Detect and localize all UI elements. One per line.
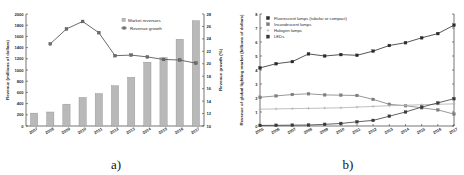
svg-text:LEDs: LEDs — [274, 34, 284, 39]
svg-text:2008: 2008 — [44, 126, 55, 135]
svg-text:Fluorescent lamps (tubular or: Fluorescent lamps (tubular or compact) — [274, 16, 347, 21]
svg-text:2: 2 — [255, 96, 258, 101]
svg-text:1800: 1800 — [14, 23, 24, 28]
svg-text:1: 1 — [255, 110, 258, 115]
chart-b-x-tick-labels: 2005200620072008200920102011201220132014… — [254, 126, 459, 135]
svg-text:28: 28 — [207, 12, 212, 17]
chart-b-svg: Revenue of global lighting market (billi… — [232, 0, 464, 160]
svg-text:Revenue growth: Revenue growth — [130, 26, 163, 31]
svg-text:2015: 2015 — [158, 126, 169, 135]
svg-text:22: 22 — [207, 49, 212, 54]
chart-a-svg: Revenue (millions of dollars) Revenue gr… — [0, 0, 232, 160]
svg-text:800: 800 — [17, 79, 25, 84]
chart-b-y-tick-labels: 012345678 — [255, 12, 258, 129]
chart-a-y2-axis-title: Revenue growth (%) — [218, 48, 223, 91]
svg-text:16: 16 — [207, 86, 212, 91]
svg-text:600: 600 — [17, 90, 25, 95]
svg-text:1000: 1000 — [14, 68, 24, 73]
svg-text:2010: 2010 — [77, 126, 88, 135]
svg-text:3: 3 — [255, 82, 258, 87]
chart-b-line-series — [259, 24, 456, 127]
svg-text:10: 10 — [207, 124, 212, 129]
svg-text:2007: 2007 — [286, 126, 297, 135]
svg-text:2007: 2007 — [28, 126, 39, 135]
chart-panel-a: Revenue (millions of dollars) Revenue gr… — [0, 0, 232, 175]
svg-text:2009: 2009 — [61, 126, 72, 135]
svg-text:2000: 2000 — [14, 12, 24, 17]
chart-a-y-axis-title: Revenue (millions of dollars) — [5, 39, 10, 100]
chart-b-legend: Fluorescent lamps (tubular or compact)In… — [266, 16, 347, 40]
svg-text:Market revenues: Market revenues — [128, 18, 162, 23]
chart-panel-b: Revenue of global lighting market (billi… — [232, 0, 464, 175]
chart-a-bar-series — [30, 21, 199, 126]
svg-text:2017: 2017 — [190, 126, 201, 135]
svg-text:18: 18 — [207, 74, 212, 79]
svg-text:Halogen lamps: Halogen lamps — [274, 28, 302, 33]
svg-text:2015: 2015 — [416, 126, 427, 135]
svg-text:2011: 2011 — [351, 126, 362, 135]
svg-text:200: 200 — [17, 112, 25, 117]
svg-text:8: 8 — [255, 12, 258, 17]
svg-text:2014: 2014 — [400, 126, 411, 135]
svg-text:2012: 2012 — [109, 126, 120, 135]
chart-a-x-tick-labels: 2007200820092010201120122013201420152016… — [28, 126, 201, 135]
svg-text:14: 14 — [207, 99, 212, 104]
svg-text:2008: 2008 — [303, 126, 314, 135]
svg-text:26: 26 — [207, 24, 212, 29]
svg-text:2014: 2014 — [141, 126, 152, 135]
panel-a-caption: a) — [0, 157, 232, 173]
svg-text:1400: 1400 — [14, 45, 24, 50]
svg-text:2016: 2016 — [432, 126, 443, 135]
panel-b-caption: b) — [232, 157, 464, 173]
chart-b-y-axis-title: Revenue of global lighting market (billi… — [239, 14, 244, 126]
svg-text:6: 6 — [255, 40, 258, 45]
svg-text:2013: 2013 — [125, 126, 136, 135]
svg-text:Revenue of global lighting mar: Revenue of global lighting market (billi… — [239, 14, 244, 126]
svg-text:2012: 2012 — [367, 126, 378, 135]
svg-text:1200: 1200 — [14, 56, 24, 61]
svg-text:24: 24 — [207, 36, 212, 41]
svg-text:2013: 2013 — [383, 126, 394, 135]
chart-a-y2-tick-labels: 10121416182022242628 — [207, 12, 212, 129]
chart-a-y-tick-labels: 0200400600800100012001400160018002000 — [14, 12, 24, 129]
svg-text:2006: 2006 — [270, 126, 281, 135]
svg-text:2009: 2009 — [319, 126, 330, 135]
svg-text:1600: 1600 — [14, 34, 24, 39]
chart-a-legend: Market revenuesRevenue growth — [121, 18, 163, 31]
svg-text:20: 20 — [207, 61, 212, 66]
svg-text:5: 5 — [255, 54, 258, 59]
svg-text:7: 7 — [255, 26, 258, 31]
svg-text:4: 4 — [255, 68, 258, 73]
svg-text:0: 0 — [21, 124, 24, 129]
svg-text:Revenue growth (%): Revenue growth (%) — [218, 48, 223, 91]
svg-text:Incandescent lamps: Incandescent lamps — [274, 22, 311, 27]
svg-text:400: 400 — [17, 101, 25, 106]
svg-text:2011: 2011 — [93, 126, 104, 135]
svg-text:2016: 2016 — [174, 126, 185, 135]
figure-container: Revenue (millions of dollars) Revenue gr… — [0, 0, 464, 175]
svg-text:2017: 2017 — [448, 126, 459, 135]
svg-text:12: 12 — [207, 111, 212, 116]
svg-text:Revenue (millions of dollars): Revenue (millions of dollars) — [5, 39, 10, 100]
svg-text:2010: 2010 — [335, 126, 346, 135]
